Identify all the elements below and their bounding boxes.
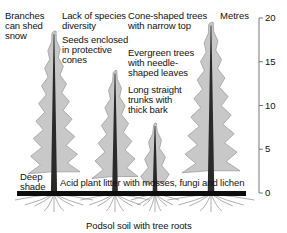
label-cone-shaped-trees: Cone-shaped trees with narrow top <box>128 11 207 31</box>
tree-root-system <box>81 194 150 212</box>
label-evergreen-needles: Evergreen trees with needle- shaped leav… <box>128 48 194 78</box>
scale-tick-label: 0 <box>265 188 270 198</box>
coniferous-forest-diagram: Branches can shed snow Lack of species d… <box>0 0 287 233</box>
label-deep-shade: Deep shade <box>20 172 45 192</box>
label-acid-litter: Acid plant litter with mosses, fungi and… <box>60 178 244 188</box>
ground-litter-band <box>17 191 246 196</box>
label-species-diversity: Lack of species diversity <box>62 11 126 31</box>
tree-root-system <box>168 194 255 212</box>
label-seeds-cones: Seeds enclosed in protective cones <box>62 35 128 65</box>
scale-tick-label: 15 <box>265 57 276 67</box>
tree-root-system <box>15 194 93 212</box>
scale-unit-label: Metres <box>220 11 249 21</box>
scale-tick-label: 20 <box>265 13 276 23</box>
tree-root-system <box>131 194 179 212</box>
scale-tick-label: 10 <box>265 101 276 111</box>
label-podsol-soil: Podsol soil with tree roots <box>86 221 192 231</box>
label-branches-shed-snow: Branches can shed snow <box>5 11 44 41</box>
tree-roots <box>15 194 255 212</box>
height-scale <box>259 18 263 193</box>
scale-tick-label: 5 <box>265 144 270 154</box>
label-straight-trunks: Long straight trunks with thick bark <box>128 85 182 115</box>
